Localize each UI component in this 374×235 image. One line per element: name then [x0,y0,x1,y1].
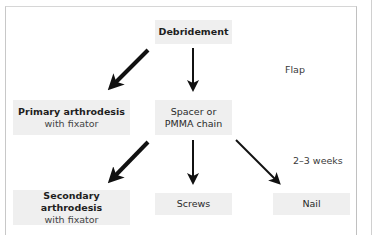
node-secondary-title: Secondary arthrodesis [13,190,130,214]
node-secondary-subtitle: with fixator [44,214,98,226]
node-debridement-title: Debridement [159,26,229,38]
node-nail-title: Nail [302,198,320,210]
arrow-spacer-to-secondary [112,142,148,179]
node-primary-title: Primary arthrodesis [18,106,125,118]
node-spacer: Spacer or PMMA chain [155,100,232,135]
node-debridement: Debridement [155,20,232,44]
arrow-debridement-to-primary [112,50,148,86]
node-screws: Screws [155,193,232,215]
label-interval: 2–3 weeks [293,155,343,166]
node-spacer-line1: Spacer or [171,106,217,118]
node-primary-arthrodesis: Primary arthrodesis with fixator [13,100,130,135]
arrow-spacer-to-nail [236,140,278,182]
node-spacer-line2: PMMA chain [165,118,222,130]
node-screws-title: Screws [177,198,211,210]
node-nail: Nail [273,193,350,215]
node-primary-subtitle: with fixator [44,118,98,130]
label-flap: Flap [285,64,305,75]
node-secondary-arthrodesis: Secondary arthrodesis with fixator [13,190,130,225]
